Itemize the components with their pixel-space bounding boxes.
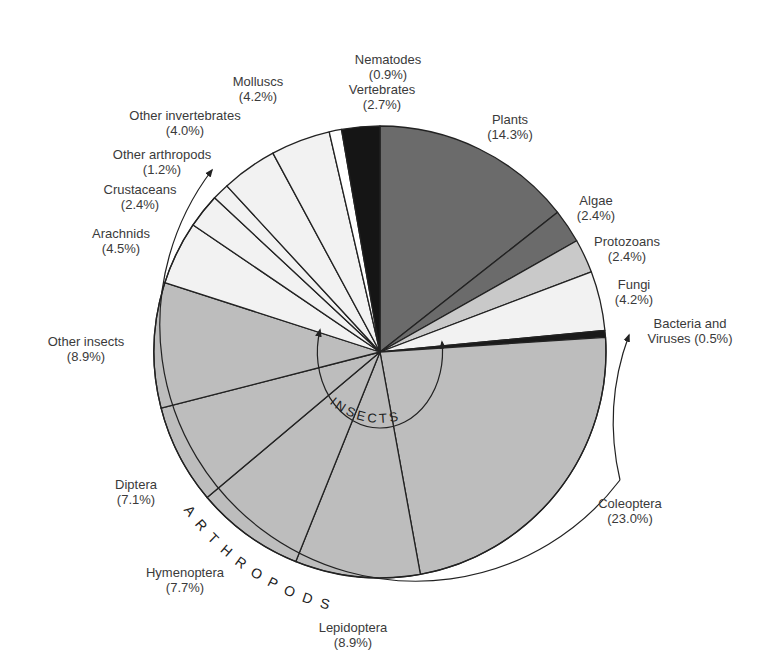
label-name: Other invertebrates bbox=[129, 108, 240, 123]
label-pct: Viruses (0.5%) bbox=[647, 331, 732, 346]
label-diptera: Diptera (7.1%) bbox=[115, 477, 157, 507]
label-coleoptera: Coleoptera (23.0%) bbox=[598, 496, 662, 526]
label-pct: (4.2%) bbox=[233, 89, 284, 104]
label-molluscs: Molluscs (4.2%) bbox=[233, 74, 284, 104]
label-pct: (7.7%) bbox=[146, 580, 224, 595]
label-pct: (2.7%) bbox=[349, 97, 416, 112]
label-pct: (8.9%) bbox=[48, 349, 125, 364]
label-hymenoptera: Hymenoptera (7.7%) bbox=[146, 565, 224, 595]
label-vertebrates: Vertebrates (2.7%) bbox=[349, 82, 416, 112]
label-name: Other insects bbox=[48, 334, 125, 349]
label-plants: Plants (14.3%) bbox=[487, 112, 533, 142]
label-pct: (2.4%) bbox=[594, 249, 660, 264]
label-name: Fungi bbox=[615, 277, 653, 292]
label-name: Diptera bbox=[115, 477, 157, 492]
label-name: Crustaceans bbox=[104, 182, 177, 197]
label-protozoans: Protozoans (2.4%) bbox=[594, 234, 660, 264]
label-crustaceans: Crustaceans (2.4%) bbox=[104, 182, 177, 212]
label-name: Bacteria and bbox=[647, 316, 732, 331]
label-pct: (0.9%) bbox=[355, 67, 421, 82]
label-name: Other arthropods bbox=[113, 147, 211, 162]
label-pct: (1.2%) bbox=[113, 162, 211, 177]
label-pct: (4.5%) bbox=[92, 241, 150, 256]
label-name: Nematodes bbox=[355, 52, 421, 67]
label-fungi: Fungi (4.2%) bbox=[615, 277, 653, 307]
label-other-arthropods: Other arthropods (1.2%) bbox=[113, 147, 211, 177]
label-pct: (7.1%) bbox=[115, 492, 157, 507]
label-name: Algae bbox=[577, 193, 615, 208]
label-other-insects: Other insects (8.9%) bbox=[48, 334, 125, 364]
label-pct: (14.3%) bbox=[487, 127, 533, 142]
label-pct: (4.0%) bbox=[129, 123, 240, 138]
label-pct: (2.4%) bbox=[577, 208, 615, 223]
label-pct: (8.9%) bbox=[319, 635, 388, 650]
label-name: Molluscs bbox=[233, 74, 284, 89]
label-arachnids: Arachnids (4.5%) bbox=[92, 226, 150, 256]
label-other-invertebrates: Other invertebrates (4.0%) bbox=[129, 108, 240, 138]
label-name: Hymenoptera bbox=[146, 565, 224, 580]
label-pct: (2.4%) bbox=[104, 197, 177, 212]
label-nematodes: Nematodes (0.9%) bbox=[355, 52, 421, 82]
label-name: Protozoans bbox=[594, 234, 660, 249]
label-name: Plants bbox=[487, 112, 533, 127]
label-lepidoptera: Lepidoptera (8.9%) bbox=[319, 620, 388, 650]
label-algae: Algae (2.4%) bbox=[577, 193, 615, 223]
label-pct: (23.0%) bbox=[598, 511, 662, 526]
label-name: Arachnids bbox=[92, 226, 150, 241]
label-name: Lepidoptera bbox=[319, 620, 388, 635]
label-name: Coleoptera bbox=[598, 496, 662, 511]
label-name: Vertebrates bbox=[349, 82, 416, 97]
label-pct: (4.2%) bbox=[615, 292, 653, 307]
arthropods-arc bbox=[613, 335, 629, 480]
label-bacteria-viruses: Bacteria and Viruses (0.5%) bbox=[647, 316, 732, 346]
